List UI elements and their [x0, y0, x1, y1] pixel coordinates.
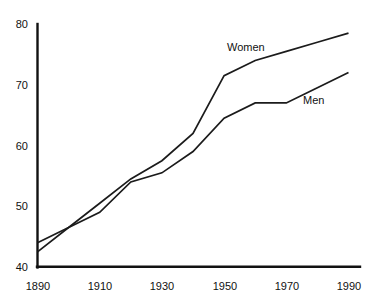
series-label-men: Men [303, 94, 324, 106]
y-tick-label-70: 70 [16, 79, 28, 91]
chart-canvas: 80 70 60 50 40 1890 1910 1930 1950 1970 … [0, 0, 382, 308]
x-tick-label-1910: 1910 [88, 280, 112, 292]
x-tick-label-1950: 1950 [213, 280, 237, 292]
y-tick-label-50: 50 [16, 200, 28, 212]
line-chart: 80 70 60 50 40 1890 1910 1930 1950 1970 … [0, 0, 382, 308]
y-tick-label-40: 40 [16, 261, 28, 273]
x-tick-label-1990: 1990 [337, 280, 361, 292]
x-tick-label-1930: 1930 [150, 280, 174, 292]
series-label-women: Women [227, 41, 265, 53]
y-tick-label-60: 60 [16, 140, 28, 152]
x-tick-label-1970: 1970 [275, 280, 299, 292]
y-tick-label-80: 80 [16, 18, 28, 30]
series-line-men [38, 73, 349, 243]
x-tick-label-1890: 1890 [26, 280, 50, 292]
